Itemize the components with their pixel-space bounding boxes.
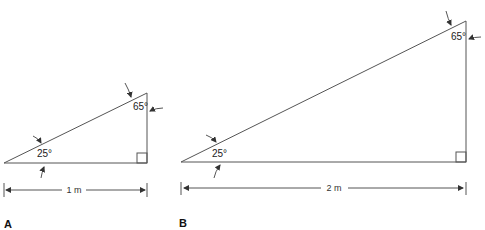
arrow-icon — [150, 108, 163, 111]
dimension-line-a: 1 m — [4, 183, 147, 197]
angle-top-b-label: 65° — [451, 31, 466, 42]
angle-left-a-label: 25° — [37, 148, 52, 159]
arrow-icon — [446, 11, 451, 25]
arrow-icon — [206, 135, 216, 142]
arrow-icon — [33, 136, 41, 143]
dimension-label-a: 1 m — [66, 185, 81, 195]
triangle-a-outline — [4, 93, 147, 163]
panel-label-b: B — [179, 217, 187, 229]
panel-label-a: A — [4, 218, 12, 230]
arrow-icon — [41, 167, 44, 178]
similar-triangles-diagram: 65° 25° 1 m A 65° 25° 2 m B — [0, 0, 485, 230]
right-angle-marker-a — [137, 153, 147, 163]
angle-left-b-label: 25° — [212, 148, 227, 159]
arrow-icon — [469, 37, 481, 39]
dimension-line-b: 2 m — [181, 182, 466, 195]
triangle-b: 65° 25° — [181, 11, 481, 178]
arrow-icon — [214, 165, 220, 178]
triangle-a: 65° 25° — [4, 83, 163, 178]
triangle-b-outline — [181, 21, 466, 162]
right-angle-marker-b — [456, 152, 466, 162]
dimension-label-b: 2 m — [326, 183, 341, 193]
angle-top-a-label: 65° — [133, 101, 148, 112]
arrow-icon — [125, 83, 131, 97]
